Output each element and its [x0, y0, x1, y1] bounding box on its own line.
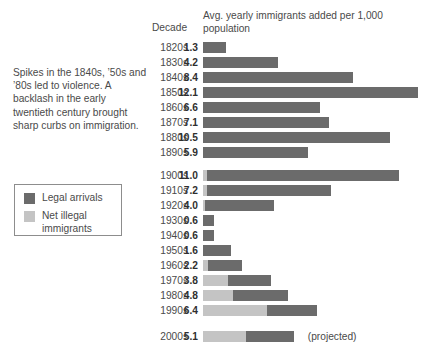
- chart-row: 1990s6.4: [0, 304, 431, 317]
- bar-segment-legal: [207, 170, 399, 181]
- chart-plot-area: 1820s1.31830s4.21840s8.41850s12.11860s6.…: [0, 0, 431, 351]
- bar-segment-legal: [203, 147, 308, 158]
- row-value-label: 2.2: [160, 259, 198, 272]
- bar-segment-legal: [208, 260, 242, 271]
- row-value-label: 10.5: [160, 131, 198, 144]
- chart-row: 1880s10.5: [0, 131, 431, 144]
- bar-segment-illegal: [203, 290, 233, 301]
- row-value-label: 8.4: [160, 71, 198, 84]
- row-bar: [203, 147, 308, 158]
- chart-row: 1920s4.0: [0, 199, 431, 212]
- bar-segment-legal: [267, 305, 317, 316]
- bar-segment-legal: [203, 245, 231, 256]
- row-value-label: 0.6: [160, 214, 198, 227]
- bar-segment-legal: [203, 117, 329, 128]
- chart-row: 1820s1.3: [0, 41, 431, 54]
- chart-row: 1870s7.1: [0, 116, 431, 129]
- row-bar: [203, 87, 418, 98]
- row-bar: [203, 260, 242, 271]
- row-bar: [203, 117, 329, 128]
- chart-row: 1950s1.6: [0, 244, 431, 257]
- row-note-label: (projected): [308, 330, 357, 343]
- bar-segment-illegal: [203, 305, 267, 316]
- bar-segment-legal: [207, 185, 332, 196]
- chart-row: 1890s5.9: [0, 146, 431, 159]
- chart-row: 1840s8.4: [0, 71, 431, 84]
- chart-row: 1970s3.8: [0, 274, 431, 287]
- row-value-label: 4.2: [160, 56, 198, 69]
- row-value-label: 12.1: [160, 86, 198, 99]
- row-value-label: 4.8: [160, 289, 198, 302]
- bar-segment-legal: [246, 331, 294, 342]
- row-value-label: 5.9: [160, 146, 198, 159]
- bar-segment-legal: [205, 200, 274, 211]
- row-bar: [203, 102, 320, 113]
- row-bar: [203, 245, 231, 256]
- row-value-label: 5.1: [160, 330, 198, 343]
- row-value-label: 1.3: [160, 41, 198, 54]
- row-bar: [203, 290, 288, 301]
- row-bar: [203, 72, 353, 83]
- chart-row: 1980s4.8: [0, 289, 431, 302]
- row-bar: [203, 185, 331, 196]
- row-value-label: 1.6: [160, 244, 198, 257]
- row-value-label: 3.8: [160, 274, 198, 287]
- row-bar: [203, 275, 271, 286]
- chart-row: 1960s2.2: [0, 259, 431, 272]
- row-value-label: 7.1: [160, 116, 198, 129]
- row-bar: [203, 215, 214, 226]
- bar-segment-illegal: [203, 331, 246, 342]
- row-bar: [203, 230, 214, 241]
- row-value-label: 11.0: [160, 169, 198, 182]
- row-bar: [203, 170, 399, 181]
- row-value-label: 6.4: [160, 304, 198, 317]
- row-value-label: 0.6: [160, 229, 198, 242]
- row-bar: [203, 57, 278, 68]
- chart-row: 1900s11.0: [0, 169, 431, 182]
- chart-row: 1850s12.1: [0, 86, 431, 99]
- chart-row: 1860s6.6: [0, 101, 431, 114]
- row-bar: [203, 132, 390, 143]
- bar-segment-legal: [233, 290, 288, 301]
- bar-segment-illegal: [203, 275, 228, 286]
- bar-segment-legal: [203, 57, 278, 68]
- row-value-label: 4.0: [160, 199, 198, 212]
- bar-segment-legal: [203, 87, 418, 98]
- row-bar: [203, 305, 317, 316]
- bar-segment-legal: [228, 275, 271, 286]
- row-value-label: 6.6: [160, 101, 198, 114]
- chart-row: 1830s4.2: [0, 56, 431, 69]
- row-bar: [203, 331, 294, 342]
- bar-segment-legal: [203, 42, 226, 53]
- row-value-label: 7.2: [160, 184, 198, 197]
- row-bar: [203, 42, 226, 53]
- chart-row: 2000s5.1(projected): [0, 330, 431, 343]
- bar-segment-legal: [203, 102, 320, 113]
- chart-row: 1930s0.6: [0, 214, 431, 227]
- bar-segment-legal: [203, 215, 214, 226]
- bar-segment-legal: [203, 72, 353, 83]
- row-bar: [203, 200, 274, 211]
- chart-row: 1910s7.2: [0, 184, 431, 197]
- bar-segment-legal: [203, 132, 390, 143]
- chart-row: 1940s0.6: [0, 229, 431, 242]
- bar-segment-legal: [203, 230, 214, 241]
